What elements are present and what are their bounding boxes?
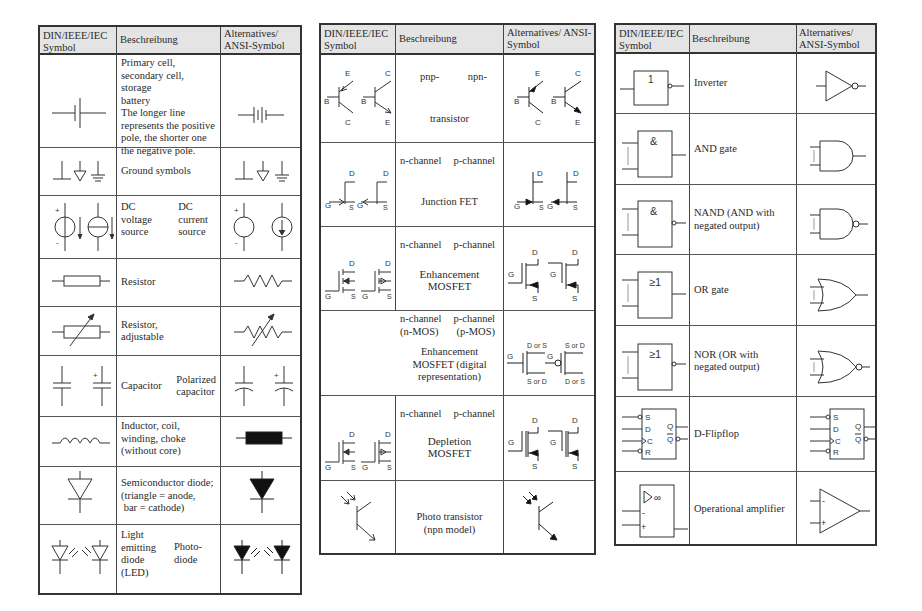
svg-text:C: C — [385, 69, 391, 78]
svg-text:G: G — [550, 270, 556, 279]
diode-description: Semiconductor diode;(triangle = anode, b… — [117, 475, 220, 517]
svg-text:S or D: S or D — [527, 378, 547, 385]
ground-description: Ground symbols — [117, 148, 220, 195]
table-transistors: DIN/IEEE/IEC Symbol Beschreibung Alterna… — [319, 23, 596, 555]
inductor-ansi-symbol — [234, 431, 294, 445]
nand-ansi-symbol — [808, 205, 874, 245]
svg-text:+: + — [55, 206, 60, 215]
mosfet-digital-ansi-symbol: GD or SS or DGS or DD or S — [505, 343, 595, 385]
svg-text:D: D — [572, 416, 578, 425]
svg-text:G: G — [362, 292, 368, 299]
svg-text:S: S — [572, 294, 577, 303]
header-description: Beschreibung — [117, 27, 221, 53]
svg-text:Q: Q — [667, 435, 673, 444]
svg-text:E: E — [575, 118, 580, 127]
resistor-adjustable-din-symbol — [50, 310, 112, 350]
svg-text:G: G — [325, 201, 331, 210]
svg-text:B: B — [514, 97, 519, 106]
bjt-din-symbol: EBCCBE — [323, 67, 395, 127]
svg-text:S: S — [573, 204, 578, 211]
resistor-adjustable-description: Resistor,adjustable — [117, 307, 220, 355]
resistor-adjustable-ansi-symbol — [232, 310, 294, 350]
mosfet-depletion-din-symbol: DGSDGS — [323, 430, 395, 470]
header-description: Beschreibung — [689, 25, 796, 52]
svg-text:R: R — [833, 448, 839, 457]
nor-description: NOR (OR withnegated output) — [690, 326, 796, 396]
svg-text:+: + — [821, 518, 826, 528]
dff-din-symbol: SDCRQQ — [620, 407, 688, 461]
svg-text:&: & — [650, 205, 658, 217]
capacitor-ansi-symbol: + — [232, 364, 296, 408]
bjt-ansi-symbol: EBCCBE — [513, 67, 585, 127]
led-photodiode-description: Lightemittingdiode(LED) Photo-diode — [117, 527, 220, 581]
dff-description: D-Flipflop — [690, 397, 796, 471]
svg-text:G: G — [547, 352, 553, 361]
mosfet-depletion-ansi-symbol: DGSDGS — [506, 415, 594, 471]
header-alternative: Alternatives/ ANSI-Symbol — [504, 25, 596, 53]
svg-text:C: C — [575, 69, 581, 78]
svg-text:D: D — [383, 169, 389, 178]
svg-text:D: D — [532, 416, 538, 425]
or-din-symbol: ≥1 — [620, 270, 686, 320]
svg-text:G: G — [508, 438, 514, 447]
mosfet-enhancement-din-symbol: DGSDGS — [323, 259, 395, 299]
svg-text:S: S — [572, 462, 577, 471]
inductor-din-symbol — [50, 433, 112, 447]
svg-text:S: S — [387, 293, 392, 299]
or-ansi-symbol — [808, 275, 874, 315]
svg-text:-: - — [822, 496, 825, 506]
resistor-ansi-symbol — [232, 273, 294, 289]
svg-text:S: S — [833, 413, 838, 422]
svg-text:G: G — [507, 352, 513, 361]
ground-ansi-symbols — [232, 159, 292, 185]
svg-text:+: + — [93, 371, 98, 380]
svg-text:G: G — [547, 202, 553, 211]
svg-text:Q: Q — [855, 435, 861, 444]
opamp-din-symbol: ∞-+ — [620, 483, 688, 539]
svg-text:S or D: S or D — [565, 343, 585, 349]
svg-text:B: B — [551, 97, 556, 106]
nor-ansi-symbol — [808, 347, 874, 387]
svg-text:+: + — [234, 206, 239, 215]
led-photodiode-din-symbol — [48, 540, 114, 576]
diode-ansi-symbol — [244, 471, 280, 515]
mosfet-depletion-description: n-channelp-channel DepletionMOSFET — [396, 406, 503, 462]
svg-text:D: D — [385, 259, 391, 268]
mosfet-enhancement-ansi-symbol: DGSDGS — [506, 247, 594, 303]
svg-text:G: G — [508, 270, 514, 279]
svg-text:S: S — [351, 293, 356, 299]
svg-text:G: G — [357, 201, 363, 210]
inverter-description: Inverter — [690, 54, 796, 113]
and-din-symbol: & — [620, 129, 686, 179]
svg-text:S: S — [532, 294, 537, 303]
table-header: DIN/IEEE/IEC Symbol Beschreibung Alterna… — [40, 27, 300, 55]
table-header: DIN/IEEE/IEC Symbol Beschreibung Alterna… — [616, 25, 875, 54]
table-passive-components: DIN/IEEE/IEC Symbol Beschreibung Alterna… — [38, 25, 302, 595]
svg-text:C: C — [345, 118, 351, 127]
svg-text:D: D — [537, 169, 543, 178]
svg-text:S: S — [349, 204, 354, 211]
dc-sources-din-symbol: +- — [50, 203, 114, 253]
resistor-description: Resistor — [117, 259, 220, 306]
resistor-din-symbol — [50, 273, 112, 289]
battery-ansi-symbol — [236, 105, 286, 125]
dc-sources-ansi-symbol: +- — [230, 203, 296, 253]
capacitor-description: Capacitor Polarizedcapacitor — [117, 356, 220, 416]
jfet-ansi-symbol: DGSDGS — [513, 168, 585, 212]
svg-text:E: E — [385, 118, 390, 127]
svg-text:-: - — [642, 508, 645, 518]
opamp-description: Operational amplifier — [690, 472, 796, 546]
svg-text:G: G — [514, 202, 520, 211]
diode-din-symbol — [62, 471, 98, 515]
header-alternative: Alternatives/ ANSI-Symbol — [221, 27, 301, 53]
dff-ansi-symbol: SDCRQQ — [808, 407, 876, 461]
svg-text:S: S — [351, 464, 356, 470]
jfet-description: n-channelp-channel Junction FET — [396, 153, 503, 210]
svg-text:D: D — [349, 430, 355, 439]
and-ansi-symbol — [808, 137, 872, 177]
svg-text:-: - — [56, 238, 59, 247]
svg-text:D or S: D or S — [565, 378, 585, 385]
dc-sources-description: DCvoltagesource DCcurrentsource — [117, 199, 220, 241]
phototransistor-din-symbol — [339, 492, 383, 546]
svg-text:G: G — [325, 292, 331, 299]
